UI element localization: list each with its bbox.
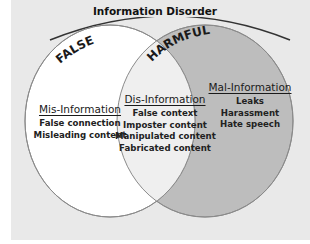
list-item: False context <box>115 108 215 120</box>
list-item: Leaks <box>206 96 294 108</box>
list-item: Harassment <box>206 108 294 120</box>
dis-information-group: Dis-Information False context Imposter c… <box>115 93 215 154</box>
mal-information-heading: Mal-Information <box>206 81 294 93</box>
list-item: Manipulated content <box>115 131 215 143</box>
dis-information-heading: Dis-Information <box>115 93 215 105</box>
diagram-title: Information Disorder <box>0 5 310 17</box>
list-item: Hate speech <box>206 119 294 131</box>
list-item: Fabricated content <box>115 143 215 155</box>
mal-information-group: Mal-Information Leaks Harassment Hate sp… <box>206 81 294 131</box>
list-item: Imposter content <box>115 120 215 132</box>
